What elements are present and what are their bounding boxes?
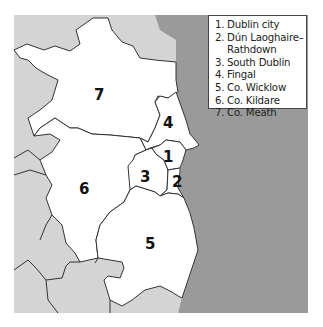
legend-item: 3.South Dublin [215, 57, 303, 70]
legend-item: 1.Dublin city [215, 19, 303, 32]
legend-item: 7.Co. Meath [215, 107, 303, 120]
legend-item: 2.Dún Laoghaire– [215, 32, 303, 45]
legend-item: 4.Fingal [215, 69, 303, 82]
region-label-7: 7 [94, 86, 104, 104]
region-label-2: 2 [172, 173, 182, 191]
region-label-6: 6 [79, 180, 89, 198]
region-label-4: 4 [163, 114, 173, 132]
map-legend: 1.Dublin city 2.Dún Laoghaire– Rathdown … [208, 15, 307, 109]
region-label-5: 5 [145, 235, 155, 253]
region-label-3: 3 [140, 168, 150, 186]
legend-item: 5.Co. Wicklow [215, 82, 303, 95]
legend-item: 6.Co. Kildare [215, 95, 303, 108]
region-label-1: 1 [163, 148, 173, 166]
legend-item: Rathdown [215, 44, 303, 57]
